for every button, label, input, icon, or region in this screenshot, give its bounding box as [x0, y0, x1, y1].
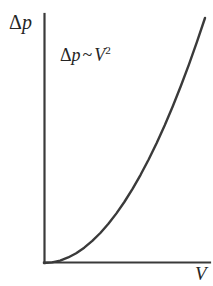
annotation-lhs-variable: p	[72, 45, 81, 65]
annotation-operator: ~	[81, 45, 95, 65]
annotation-rhs-variable: V	[94, 45, 105, 65]
relation-annotation: Δp~V2	[60, 46, 111, 64]
annotation-exponent: 2	[105, 44, 111, 56]
y-axis-label-variable: p	[22, 11, 32, 33]
annotation-delta: Δ	[60, 45, 72, 65]
plot-canvas	[0, 0, 213, 286]
y-axis-label: Δp	[9, 12, 32, 32]
physics-figure-delta-p-vs-velocity: Δp V Δp~V2	[0, 0, 213, 286]
y-axis-label-delta: Δ	[9, 11, 22, 33]
x-axis-label: V	[195, 264, 207, 283]
